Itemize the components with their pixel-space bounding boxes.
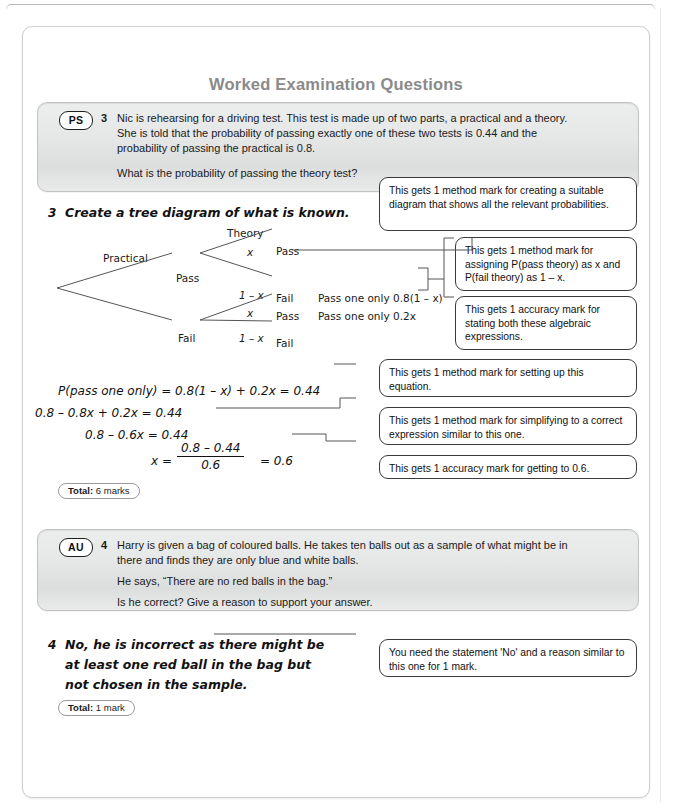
badge-ps: PS xyxy=(59,111,93,130)
question-4-line-2: there and finds they are only blue and w… xyxy=(117,553,637,569)
page-outer-frame xyxy=(6,4,655,9)
tree-prob-x-top: x xyxy=(247,246,253,258)
tree-prob-x-bottom: x xyxy=(247,307,253,319)
note-3-3: This gets 1 accuracy mark for stating bo… xyxy=(455,296,637,350)
tree-header-theory: Theory xyxy=(227,227,263,239)
total-label-4: Total: xyxy=(68,702,93,713)
final-equation-lhs: x = xyxy=(151,454,172,468)
tree-outcome-top: Pass one only 0.8(1 – x) xyxy=(318,292,443,304)
question-3-line-1: Nic is rehearsing for a driving test. Th… xyxy=(117,111,637,127)
answer-4-line-2: at least one red ball in the bag but xyxy=(65,657,311,672)
question-4-prompt: Is he correct? Give a reason to support … xyxy=(117,595,637,611)
equation-2: 0.8 – 0.8x + 0.2x = 0.44 xyxy=(35,406,182,420)
tree-outcome-bottom: Pass one only 0.2x xyxy=(318,310,416,322)
tree-leaf-fail-fail: Fail xyxy=(276,337,293,349)
note-3-6: This gets 1 accuracy mark for getting to… xyxy=(379,455,637,479)
equation-3: 0.8 – 0.6x = 0.44 xyxy=(85,428,188,442)
answer-3-heading: Create a tree diagram of what is known. xyxy=(65,205,350,220)
answer-4-line-1: No, he is incorrect as there might be xyxy=(65,637,324,652)
final-equation-fraction: 0.8 – 0.44 0.6 xyxy=(177,441,244,472)
textbook-page: Worked Examination Questions PS 3 Nic is… xyxy=(0,0,685,810)
fraction-denominator: 0.6 xyxy=(177,458,244,472)
note-3-2: This gets 1 method mark for assigning P(… xyxy=(455,237,637,291)
answer-4-number: 4 xyxy=(48,638,56,652)
tree-header-practical: Practical xyxy=(103,252,148,264)
total-marks-3: Total: 6 marks xyxy=(58,483,140,499)
total-value-3: 6 marks xyxy=(96,485,130,496)
question-number-3: 3 xyxy=(101,112,107,124)
question-4-line-1: Harry is given a bag of coloured balls. … xyxy=(117,538,637,554)
note-3-1: This gets 1 method mark for creating a s… xyxy=(379,177,637,231)
tree-node-practical-pass: Pass xyxy=(176,272,199,284)
tree-node-practical-fail: Fail xyxy=(178,332,195,344)
total-value-4: 1 mark xyxy=(96,702,125,713)
tree-prob-1mx-top: 1 – x xyxy=(239,289,264,301)
fraction-bar xyxy=(177,456,244,457)
badge-au: AU xyxy=(59,538,93,557)
question-3-line-3: probability of passing the practical is … xyxy=(117,141,637,157)
final-equation-rhs: = 0.6 xyxy=(260,454,293,468)
question-4-quote: He says, “There are no red balls in the … xyxy=(117,574,637,590)
page-side-rule xyxy=(660,8,661,802)
content-card: Worked Examination Questions PS 3 Nic is… xyxy=(22,26,650,798)
tree-prob-1mx-bottom: 1 – x xyxy=(239,332,264,344)
fraction-numerator: 0.8 – 0.44 xyxy=(177,441,244,455)
page-title: Worked Examination Questions xyxy=(23,75,649,94)
question-number-4: 4 xyxy=(101,539,107,551)
tree-leaf-fail-pass: Pass xyxy=(276,310,299,322)
question-3-line-2: She is told that the probability of pass… xyxy=(117,126,637,142)
total-label-3: Total: xyxy=(68,485,93,496)
answer-4-line-3: not chosen in the sample. xyxy=(65,677,247,692)
note-3-4: This gets 1 method mark for setting up t… xyxy=(379,359,637,397)
note-4-1: You need the statement 'No' and a reason… xyxy=(379,639,637,677)
tree-leaf-pass-fail: Fail xyxy=(276,292,293,304)
tree-leaf-pass-pass: Pass xyxy=(276,245,299,257)
equation-1: P(pass one only) = 0.8(1 – x) + 0.2x = 0… xyxy=(58,384,320,398)
note-3-5: This gets 1 method mark for simplifying … xyxy=(379,407,637,445)
answer-3-number: 3 xyxy=(48,206,56,220)
total-marks-4: Total: 1 mark xyxy=(58,700,135,716)
